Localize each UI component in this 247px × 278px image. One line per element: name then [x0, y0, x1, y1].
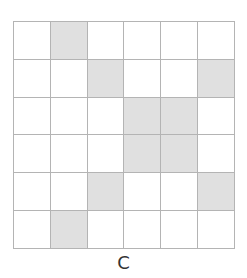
- grid-cell-empty: [160, 59, 197, 97]
- grid-cell-empty: [123, 59, 160, 97]
- grid-cell-shaded: [87, 172, 124, 210]
- grid-cell-empty: [13, 97, 50, 135]
- grid-cell-empty: [123, 210, 160, 248]
- grid-cell-empty: [50, 97, 87, 135]
- grid-cell-empty: [50, 134, 87, 172]
- grid-cell-shaded: [123, 97, 160, 135]
- grid-cell-empty: [197, 134, 234, 172]
- grid-cell-shaded: [160, 97, 197, 135]
- grid-cell-shaded: [160, 134, 197, 172]
- grid-cell-empty: [13, 210, 50, 248]
- grid-cell-empty: [197, 97, 234, 135]
- grid-cell-empty: [87, 21, 124, 59]
- grid-cell-shaded: [87, 59, 124, 97]
- grid-cell-shaded: [197, 59, 234, 97]
- grid-cell-empty: [123, 172, 160, 210]
- shaded-grid: [13, 21, 235, 249]
- grid-cell-empty: [160, 21, 197, 59]
- grid-cell-empty: [13, 172, 50, 210]
- grid-cell-shaded: [50, 210, 87, 248]
- grid-cell-empty: [123, 21, 160, 59]
- grid-cell-shaded: [197, 172, 234, 210]
- grid-cell-empty: [197, 21, 234, 59]
- grid-cell-empty: [13, 21, 50, 59]
- grid-cell-empty: [160, 210, 197, 248]
- figure-label: C: [0, 252, 247, 274]
- grid-cell-empty: [50, 59, 87, 97]
- grid-cell-empty: [13, 59, 50, 97]
- grid-cell-empty: [87, 97, 124, 135]
- grid-cell-empty: [13, 134, 50, 172]
- grid-cell-empty: [87, 134, 124, 172]
- grid-cell-empty: [87, 210, 124, 248]
- grid-cell-shaded: [123, 134, 160, 172]
- grid-cell-empty: [197, 210, 234, 248]
- grid-cell-empty: [50, 172, 87, 210]
- grid-cell-shaded: [50, 21, 87, 59]
- grid-cell-empty: [160, 172, 197, 210]
